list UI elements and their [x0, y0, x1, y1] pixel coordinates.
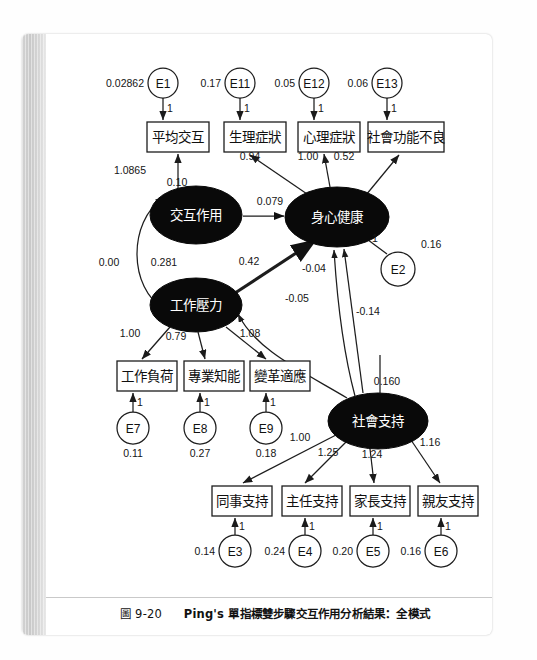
fixed-loading-label: 1 — [137, 396, 143, 408]
fixed-loading-label: 1 — [309, 520, 315, 532]
fixed-loading-label: 1 — [377, 520, 383, 532]
error-term-label: E8 — [193, 422, 208, 436]
error-term-label: E2 — [391, 263, 406, 277]
error-term: E11 — [225, 68, 255, 98]
observed-variable: 同事支持 — [212, 486, 272, 516]
coefficient-label: 0.281 — [151, 256, 177, 268]
observed-variable-label: 平均交互 — [152, 129, 204, 145]
observed-variable: 心理症狀 — [298, 122, 360, 152]
caption-title: Ping's 單指標雙步驟交互作用分析結果：全模式 — [184, 607, 430, 621]
fixed-loading-label: 1 — [239, 520, 245, 532]
error-term-label: E4 — [298, 545, 313, 559]
error-term: E2 — [381, 252, 415, 286]
observed-variable-label: 同事支持 — [216, 493, 268, 509]
error-term: E7 — [117, 412, 149, 444]
path-PH-PSY — [324, 154, 330, 187]
coefficient-label: 1.00 — [298, 150, 319, 162]
coefficient-label-group: 0.000.2810.42-0.04-0.05-0.140.1600.0791.… — [99, 102, 451, 532]
error-variance-label: 0.06 — [348, 77, 369, 89]
error-variance-label: 0.16 — [421, 238, 442, 250]
error-term: E1 — [148, 68, 178, 98]
observed-variable-label: 專業知能 — [188, 368, 240, 384]
observed-variable: 親友支持 — [418, 486, 478, 516]
caption-number: 圖 9-20 — [120, 607, 162, 621]
error-variance-label: 0.05 — [275, 77, 296, 89]
latent-variable-group: 交互作用工作壓力身心健康社會支持 — [150, 186, 428, 449]
coefficient-label: 1.00 — [120, 327, 141, 339]
path-JS-PK — [198, 332, 205, 359]
latent-variable-label: 工作壓力 — [170, 297, 222, 313]
observed-variable-label: 家長支持 — [354, 493, 406, 509]
error-term-label: E12 — [303, 77, 325, 91]
path-SS-PH-curve — [334, 250, 355, 396]
latent-variable-label: 社會支持 — [352, 413, 404, 429]
observed-variable-label: 社會功能不良 — [367, 129, 445, 145]
fixed-loading-label: 1 — [167, 102, 173, 114]
coefficient-label: 0.160 — [374, 375, 400, 387]
error-variance-label: 0.18 — [256, 447, 277, 459]
error-term: E12 — [299, 68, 329, 98]
observed-variable: 變革適應 — [250, 361, 310, 391]
error-term-label: E6 — [434, 545, 449, 559]
observed-variable: 工作負荷 — [117, 361, 177, 391]
coefficient-label: -0.14 — [356, 305, 380, 317]
path-PH-SOC — [366, 155, 399, 195]
observed-variable: 專業知能 — [184, 361, 244, 391]
error-variance-label: 0.24 — [265, 545, 286, 557]
observed-variable-label: 心理症狀 — [303, 129, 356, 145]
error-variance-label: 0.20 — [333, 545, 354, 557]
fixed-loading-label: 1 — [318, 102, 324, 114]
error-variance-label: 0.14 — [195, 545, 216, 557]
coefficient-label: -0.04 — [302, 262, 326, 274]
observed-variable: 生理症狀 — [224, 122, 286, 152]
caption-divider — [46, 597, 492, 598]
coefficient-label: 0.10 — [167, 176, 188, 188]
observed-variable: 家長支持 — [350, 486, 410, 516]
error-term-label: E7 — [126, 422, 141, 436]
coefficient-label: 0.52 — [334, 150, 355, 162]
error-term: E9 — [250, 412, 282, 444]
observed-variable: 平均交互 — [147, 122, 209, 152]
error-term: E8 — [184, 412, 216, 444]
book-page: 平均交互生理症狀心理症狀社會功能不良工作負荷專業知能變革適應同事支持主任支持家長… — [0, 0, 537, 660]
coefficient-label: 0.00 — [99, 256, 120, 268]
error-term-label: E1 — [156, 77, 171, 91]
latent-variable: 工作壓力 — [150, 278, 242, 332]
coefficient-label: 1.25 — [318, 446, 339, 458]
coefficient-label: -0.05 — [285, 292, 309, 304]
observed-variable-label: 生理症狀 — [229, 129, 282, 145]
latent-variable: 交互作用 — [150, 186, 242, 244]
latent-variable-label: 交互作用 — [170, 207, 222, 223]
coefficient-label: 0.079 — [257, 195, 283, 207]
error-term-label: E3 — [228, 545, 243, 559]
observed-variable-label: 親友支持 — [422, 493, 474, 509]
fixed-loading-label: 1 — [244, 102, 250, 114]
observed-variable-label: 工作負荷 — [121, 368, 173, 384]
observed-variable-label: 變革適應 — [254, 368, 306, 384]
coefficient-label: 0.42 — [239, 255, 260, 267]
error-term: E3 — [219, 535, 251, 567]
error-term: E6 — [425, 535, 457, 567]
coefficient-label: 0.79 — [166, 330, 187, 342]
error-variance-label: 0.17 — [201, 77, 222, 89]
coefficient-label: 1.08 — [240, 327, 261, 339]
error-variance-label: 0.27 — [190, 447, 211, 459]
coefficient-label: 1 — [372, 232, 378, 244]
coefficient-label: 1.16 — [420, 436, 441, 448]
sem-path-diagram: 平均交互生理症狀心理症狀社會功能不良工作負荷專業知能變革適應同事支持主任支持家長… — [0, 0, 537, 660]
coefficient-label: 1.0865 — [114, 164, 146, 176]
error-variance-label: 0.02862 — [106, 77, 144, 89]
error-term-label: E13 — [376, 77, 398, 91]
error-term: E5 — [357, 535, 389, 567]
latent-variable: 社會支持 — [328, 393, 428, 449]
error-variance-label: 0.11 — [123, 447, 143, 459]
observed-variable: 主任支持 — [282, 486, 342, 516]
observed-variable-label: 主任支持 — [286, 493, 338, 509]
coefficient-label: 0.94 — [240, 150, 261, 162]
latent-variable-label: 身心健康 — [311, 209, 364, 225]
fixed-loading-label: 1 — [204, 396, 210, 408]
fixed-loading-label: 1 — [445, 520, 451, 532]
error-variance-label: 0.16 — [401, 545, 422, 557]
coefficient-label: 1.00 — [290, 431, 311, 443]
fixed-loading-label: 1 — [391, 102, 397, 114]
